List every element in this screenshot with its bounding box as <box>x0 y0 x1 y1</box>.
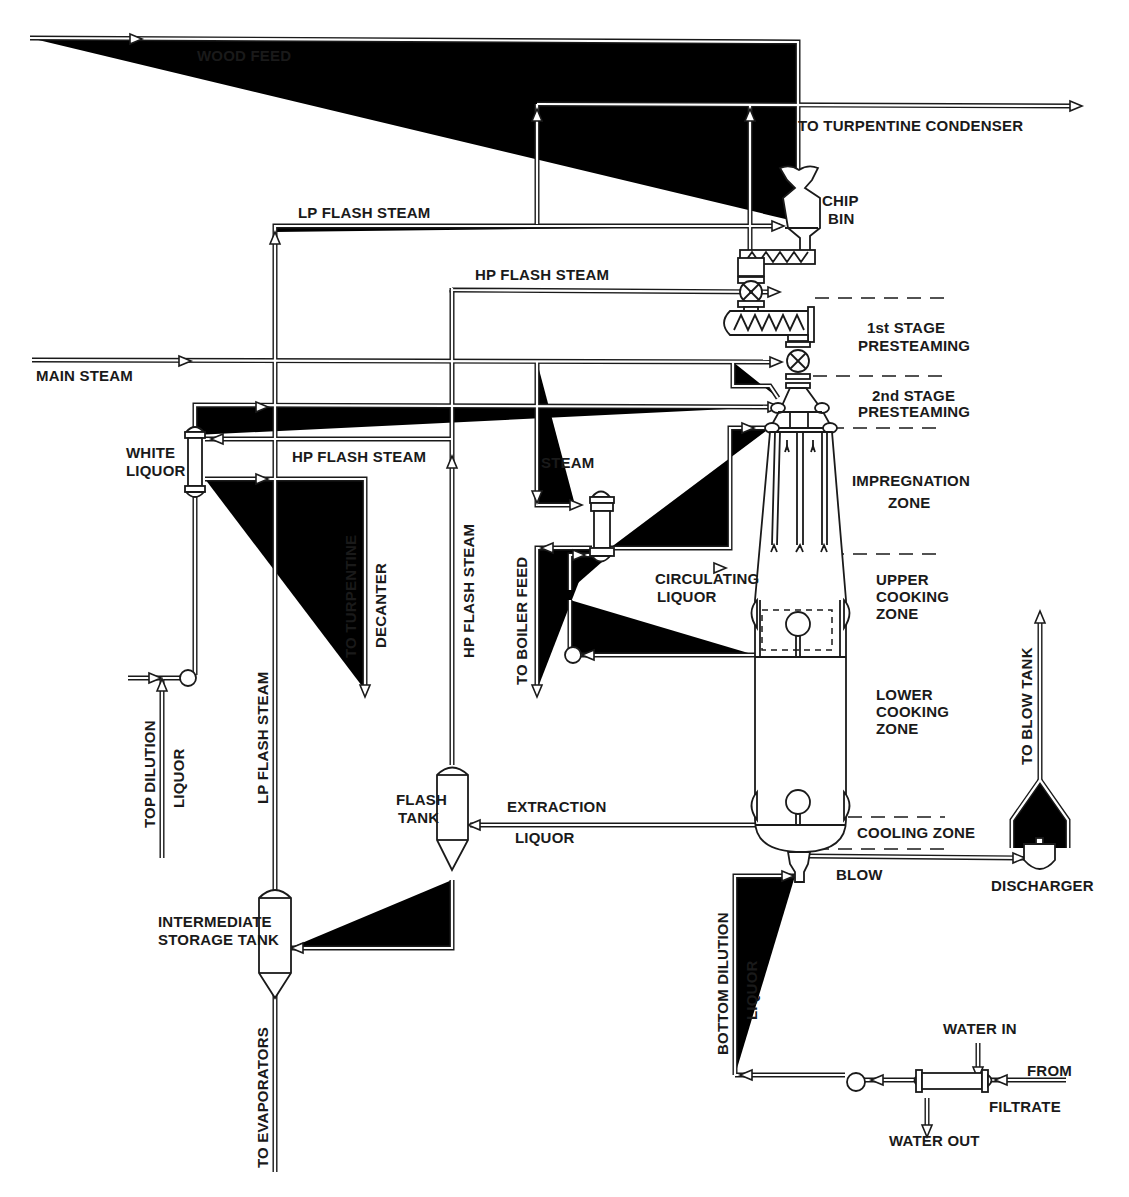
label-filtrate: FILTRATE <box>989 1098 1061 1115</box>
label-white-liquor-2: LIQUOR <box>126 462 186 479</box>
label-intermediate-2: STORAGE TANK <box>158 931 279 948</box>
filtrate-cooler <box>915 1070 992 1092</box>
label-chip-bin-1: CHIP <box>822 192 859 209</box>
label-wood-feed: WOOD FEED <box>197 47 291 64</box>
digester-vessel <box>752 432 850 882</box>
label-upper-cooking-1: UPPER <box>876 571 929 588</box>
label-water-out: WATER OUT <box>889 1132 980 1149</box>
steaming-vessel <box>724 307 814 342</box>
label-lower-cooking-2: COOKING <box>876 703 949 720</box>
label-extraction-1: EXTRACTION <box>507 798 607 815</box>
label-lower-cooking-1: LOWER <box>876 686 933 703</box>
label-1st-stage-2: PRESTEAMING <box>858 337 970 354</box>
top-dilution-pump <box>180 670 196 686</box>
label-lp-flash-steam-top: LP FLASH STEAM <box>298 204 431 221</box>
circulation-heater <box>590 492 614 562</box>
label-discharger: DISCHARGER <box>991 877 1094 894</box>
bottom-dilution-pump <box>847 1073 865 1091</box>
circulation-pump <box>565 647 581 663</box>
label-decanter: DECANTER <box>372 563 389 648</box>
label-circulating-2: LIQUOR <box>657 588 717 605</box>
label-bottom-dilution: BOTTOM DILUTION <box>714 912 731 1055</box>
label-impregnation-2: ZONE <box>888 494 930 511</box>
label-white-liquor-1: WHITE <box>126 444 175 461</box>
high-pressure-feeder <box>786 342 810 388</box>
label-2nd-stage-1: 2nd STAGE <box>872 387 955 404</box>
label-main-steam: MAIN STEAM <box>36 367 133 384</box>
digester-process-diagram: WOOD FEED TO TURPENTINE CONDENSER CHIP B… <box>0 0 1129 1197</box>
label-flash-tank-1: FLASH <box>396 791 447 808</box>
label-chip-bin-2: BIN <box>828 210 854 227</box>
label-to-blow-tank: TO BLOW TANK <box>1018 647 1035 765</box>
label-water-in: WATER IN <box>943 1020 1017 1037</box>
label-to-boiler-feed: TO BOILER FEED <box>513 557 530 685</box>
label-lp-flash-steam-vertical: LP FLASH STEAM <box>254 671 271 804</box>
label-to-evaporators: TO EVAPORATORS <box>254 1027 271 1168</box>
label-top-dilution: TOP DILUTION <box>141 720 158 828</box>
label-from: FROM <box>1027 1062 1072 1079</box>
white-liquor-heater <box>185 427 205 497</box>
label-upper-cooking-3: ZONE <box>876 605 918 622</box>
label-flash-tank-2: TANK <box>398 809 439 826</box>
label-top-dilution-liquor: LIQUOR <box>170 748 187 808</box>
label-hp-flash-steam-top: HP FLASH STEAM <box>475 266 609 283</box>
label-steam: STEAM <box>541 454 595 471</box>
low-pressure-feeder <box>738 277 764 311</box>
flash-tank <box>437 768 468 871</box>
label-intermediate-1: INTERMEDIATE <box>158 913 272 930</box>
label-hp-flash-steam-mid: HP FLASH STEAM <box>292 448 426 465</box>
label-to-turpentine-condenser: TO TURPENTINE CONDENSER <box>798 117 1023 134</box>
label-blow: BLOW <box>836 866 883 883</box>
label-to-turpentine: TO TURPENTINE <box>342 535 359 658</box>
label-upper-cooking-2: COOKING <box>876 588 949 605</box>
chip-meter-screw <box>738 250 815 276</box>
label-2nd-stage-2: PRESTEAMING <box>858 403 970 420</box>
label-lower-cooking-3: ZONE <box>876 720 918 737</box>
label-impregnation-1: IMPREGNATION <box>852 472 970 489</box>
label-extraction-2: LIQUOR <box>515 829 575 846</box>
label-hp-flash-steam-vertical: HP FLASH STEAM <box>460 524 477 658</box>
label-circulating-1: CIRCULATING <box>655 570 759 587</box>
label-cooling-zone: COOLING ZONE <box>857 824 975 841</box>
label-bottom-dilution-liquor: LIQUOR <box>743 960 760 1020</box>
label-1st-stage-1: 1st STAGE <box>867 319 945 336</box>
